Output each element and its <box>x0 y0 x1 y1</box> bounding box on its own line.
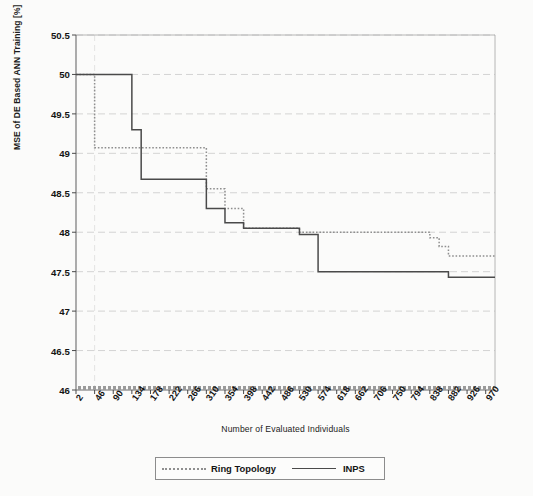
x-tick-label: 838 <box>428 384 445 403</box>
x-tick-label: 970 <box>484 384 501 403</box>
legend-label-ring-topology: Ring Topology <box>211 463 276 474</box>
chart-figure: MSE of DE Based ANN Training [%] 4646.54… <box>0 0 533 496</box>
x-axis-tick-labels: 2469013417822226631035439844248653057461… <box>0 0 533 496</box>
x-tick-label: 46 <box>93 388 107 402</box>
x-tick-label: 222 <box>167 384 184 403</box>
x-tick-label: 90 <box>111 388 125 402</box>
x-axis-title: Number of Evaluated Individuals <box>76 424 495 434</box>
legend-entry-inps: INPS <box>292 463 365 474</box>
x-tick-label: 794 <box>409 384 426 403</box>
chart-legend: Ring Topology INPS <box>155 457 385 480</box>
x-tick-label: 574 <box>316 384 333 403</box>
x-tick-label: 310 <box>204 384 221 403</box>
legend-label-inps: INPS <box>343 463 365 474</box>
x-tick-label: 266 <box>186 384 203 403</box>
x-tick-label: 750 <box>391 384 408 403</box>
legend-entry-ring-topology: Ring Topology <box>162 463 276 474</box>
x-tick-label: 882 <box>446 384 463 403</box>
x-tick-label: 178 <box>148 384 165 403</box>
x-tick-label: 926 <box>465 384 482 403</box>
solid-line-swatch-icon <box>292 468 336 469</box>
x-tick-label: 530 <box>297 384 314 403</box>
x-tick-label: 354 <box>223 384 240 403</box>
x-tick-label: 398 <box>242 384 259 403</box>
x-tick-label: 706 <box>372 384 389 403</box>
x-tick-label: 618 <box>335 384 352 403</box>
x-tick-label: 486 <box>279 384 296 403</box>
x-tick-label: 662 <box>353 384 370 403</box>
x-tick-label: 442 <box>260 384 277 403</box>
dotted-line-swatch-icon <box>162 468 206 470</box>
x-tick-label: 2 <box>74 393 85 403</box>
x-tick-label: 134 <box>130 384 147 403</box>
